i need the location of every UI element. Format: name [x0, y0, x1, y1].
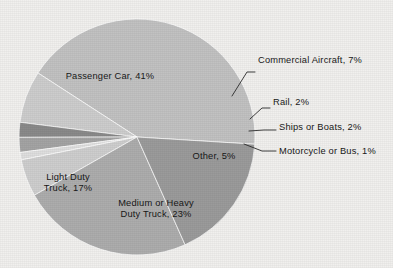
slice-label-ships-or-boats: Ships or Boats, 2% — [279, 122, 361, 133]
slice-label-other: Other, 5% — [192, 151, 235, 162]
slice-label-medium-heavy-duty-truck-line1: Medium or Heavy — [118, 198, 194, 209]
pie-chart-graphic — [0, 0, 393, 268]
pie-chart: Passenger Car, 41% Light Duty Truck, 17%… — [0, 0, 393, 268]
slice-label-passenger-car-text: Passenger Car, 41% — [66, 71, 155, 81]
slice-label-light-duty-truck: Light Duty Truck, 17% — [44, 172, 93, 194]
slice-label-passenger-car: Passenger Car, 41% — [66, 71, 155, 82]
slice-label-motorcycle-or-bus: Motorcycle or Bus, 1% — [279, 146, 376, 157]
slice-label-motorcycle-or-bus-text: Motorcycle or Bus, 1% — [279, 146, 376, 156]
slice-label-ships-or-boats-text: Ships or Boats, 2% — [279, 122, 361, 132]
slice-label-light-duty-truck-line1: Light Duty — [44, 172, 93, 183]
slice-label-other-text: Other, 5% — [192, 151, 235, 161]
slice-label-commercial-aircraft-text: Commercial Aircraft, 7% — [258, 55, 362, 65]
slice-label-rail: Rail, 2% — [273, 97, 309, 108]
slice-label-light-duty-truck-line2: Truck, 17% — [44, 183, 93, 194]
slice-label-commercial-aircraft: Commercial Aircraft, 7% — [258, 55, 362, 66]
slice-label-medium-heavy-duty-truck: Medium or Heavy Duty Truck, 23% — [118, 198, 194, 220]
slice-label-medium-heavy-duty-truck-line2: Duty Truck, 23% — [118, 209, 194, 220]
slice-label-rail-text: Rail, 2% — [273, 97, 309, 107]
